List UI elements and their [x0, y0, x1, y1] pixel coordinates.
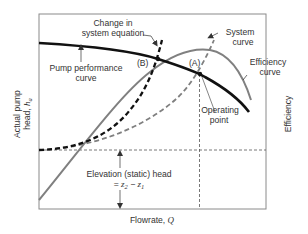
pump-curve-label-line2: curve [75, 73, 96, 83]
elevation-head-equation: = z2 − z1 [114, 179, 145, 190]
x-axis-label: Flowrate, Q [130, 215, 175, 225]
system-curve-label-line1: System [226, 27, 255, 37]
operating-point-a-marker [198, 72, 202, 76]
change-leader [143, 35, 156, 44]
operating-point-label-line2: point [210, 115, 229, 125]
y-axis-left-label: Actual pump head, ha [12, 90, 33, 138]
change-label-line2: system equation [82, 28, 145, 38]
point-a-label: (A) [189, 58, 201, 68]
point-b-label: (B) [137, 58, 149, 68]
svg-text:Actual pump: Actual pump [12, 90, 22, 138]
system-curve-leader [210, 33, 218, 37]
efficiency-curve-label-line2: curve [259, 67, 280, 77]
elevation-head-label: Elevation (static) head [86, 169, 171, 179]
y-axis-right-label: Efficiency [283, 95, 293, 132]
changed-system-curve [39, 40, 162, 150]
operating-point-b-marker [156, 57, 160, 61]
pump-system-diagram: Change in system equation Pump performan… [0, 0, 308, 234]
efficiency-curve-label-line1: Efficiency [250, 57, 287, 67]
operating-point-label-line1: Operating [201, 105, 239, 115]
pump-curve-label-line1: Pump performance [49, 63, 122, 73]
change-label-line1: Change in [93, 18, 132, 28]
svg-text:Efficiency: Efficiency [283, 95, 293, 132]
efficiency-curve-leader [243, 75, 247, 80]
svg-text:head, ha: head, ha [22, 98, 33, 130]
system-curve-label-line2: curve [232, 37, 253, 47]
